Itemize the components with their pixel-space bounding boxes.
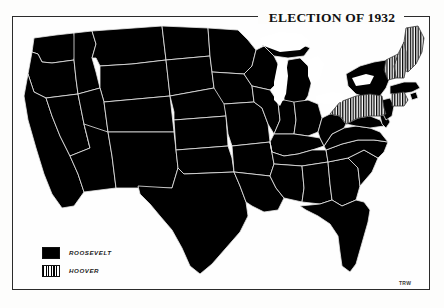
map-legend: ROOSEVELT HOOVER [42,245,172,281]
election-map-page: ELECTION OF 1932 ROOSEVELT HOOVER TRW [0,0,444,308]
state-connecticut [392,92,408,106]
legend-label-roosevelt: ROOSEVELT [69,249,112,256]
legend-label-hoover: HOOVER [69,267,99,274]
legend-item-roosevelt: ROOSEVELT [42,245,172,260]
legend-swatch-roosevelt [42,247,60,259]
legend-swatch-hoover [42,265,60,277]
artist-credit: TRW [399,280,411,286]
page-title: ELECTION OF 1932 [262,10,402,26]
roosevelt-states [24,26,420,274]
legend-item-hoover: HOOVER [42,263,172,278]
